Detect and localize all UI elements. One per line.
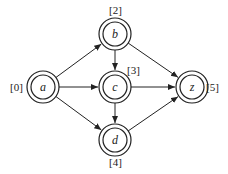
- graph-diagram: abczd [0][2][3][5][4]: [0, 0, 228, 174]
- edge-a-b: [56, 44, 101, 77]
- node-weight-c: [3]: [127, 64, 140, 76]
- node-weight-b: [2]: [109, 4, 122, 16]
- node-d: d: [99, 124, 131, 156]
- node-weight-d: [4]: [109, 156, 122, 168]
- node-label: c: [112, 80, 118, 94]
- node-label: a: [40, 80, 46, 94]
- node-weight-a: [0]: [10, 81, 23, 93]
- node-label: b: [112, 27, 118, 41]
- edge-a-d: [56, 96, 101, 129]
- node-z: z: [176, 71, 208, 103]
- node-label: z: [189, 80, 195, 94]
- node-a: a: [27, 71, 59, 103]
- node-b: b: [99, 18, 131, 50]
- node-weight-z: [5]: [206, 81, 219, 93]
- node-label: d: [112, 133, 119, 147]
- edge-d-z: [128, 97, 178, 131]
- nodes-layer: abczd: [27, 18, 208, 156]
